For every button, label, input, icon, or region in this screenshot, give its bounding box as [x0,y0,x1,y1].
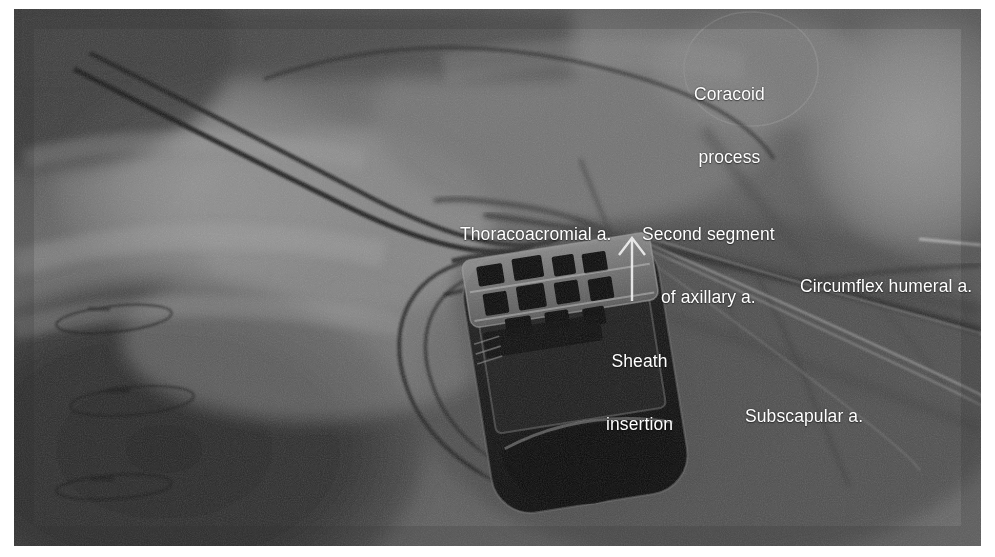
figure-root: Coracoid process Thoracoacromial a. Seco… [0,0,995,557]
fluoroscopy-image: Coracoid process Thoracoacromial a. Seco… [14,9,981,546]
film-grain-overlay [14,9,981,546]
fluoroscopy-canvas [14,9,981,546]
